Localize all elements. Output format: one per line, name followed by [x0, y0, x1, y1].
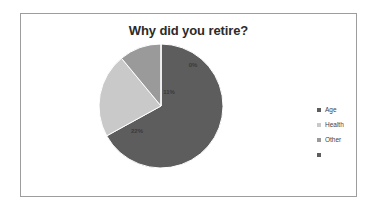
legend-item-other[interactable]: Other: [317, 132, 377, 147]
legend-item-blank[interactable]: [317, 147, 377, 162]
legend-swatch-icon-age: [317, 108, 321, 112]
pie-slice-label-age: 67%: [208, 169, 220, 175]
legend-swatch-icon-blank: [317, 153, 321, 157]
pie-chart-plot-area: 67% 22% 11% 0%: [21, 44, 301, 196]
legend-item-age[interactable]: Age: [317, 102, 377, 117]
legend-label-age: Age: [325, 106, 337, 113]
legend-item-health[interactable]: Health: [317, 117, 377, 132]
pie-chart-svg: [21, 44, 301, 196]
legend-swatch-icon-health: [317, 123, 321, 127]
legend-label-other: Other: [325, 136, 341, 143]
chart-legend: Age Health Other: [317, 102, 377, 162]
pie-slices: [99, 44, 223, 168]
chart-frame: Why did you retire? 67% 22% 11% 0% Age H…: [20, 13, 357, 197]
legend-swatch-icon-other: [317, 138, 321, 142]
pie-slice-label-other: 11%: [163, 89, 175, 95]
pie-slice-label-blank: 0%: [189, 62, 198, 68]
chart-title: Why did you retire?: [21, 23, 356, 38]
legend-label-health: Health: [325, 121, 344, 128]
pie-slice-label-health: 22%: [131, 128, 143, 134]
